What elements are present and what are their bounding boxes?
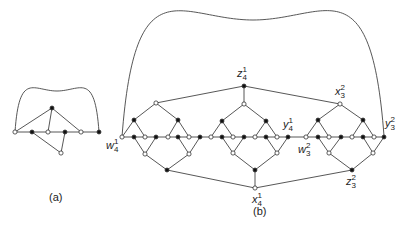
open-vertex <box>187 152 191 156</box>
filled-vertex <box>154 135 158 139</box>
filled-vertex <box>220 135 224 139</box>
filled-vertex <box>132 118 136 122</box>
filled-vertex <box>316 118 320 122</box>
open-vertex <box>275 151 279 155</box>
filled-vertex <box>361 135 365 139</box>
open-vertex <box>231 135 235 139</box>
vertex-label-w4_1: w14 <box>106 138 118 154</box>
filled-vertex <box>242 135 246 139</box>
open-vertex <box>143 135 147 139</box>
vertex-label-y3_2: y23 <box>385 116 395 132</box>
edge <box>122 120 134 137</box>
filled-vertex <box>361 118 365 122</box>
open-vertex <box>209 135 213 139</box>
edge <box>168 120 178 137</box>
edge <box>340 104 363 120</box>
edge <box>363 120 374 137</box>
edge <box>318 104 340 120</box>
edge <box>178 120 189 137</box>
edge <box>222 104 244 121</box>
open-vertex <box>59 151 63 155</box>
filled-vertex <box>220 119 224 123</box>
edge <box>167 170 255 188</box>
edge <box>211 121 222 137</box>
filled-vertex <box>316 135 320 139</box>
edge <box>255 153 277 170</box>
filled-vertex <box>176 135 180 139</box>
open-vertex <box>275 135 279 139</box>
filled-vertex <box>50 106 54 110</box>
filled-vertex <box>286 135 290 139</box>
graph-b <box>120 11 386 190</box>
edge <box>352 153 373 170</box>
edge <box>167 154 189 170</box>
graph-a <box>13 88 101 155</box>
edge <box>178 137 189 154</box>
open-vertex <box>79 130 83 134</box>
edge <box>266 121 277 137</box>
edge <box>145 154 167 170</box>
edge <box>156 103 178 120</box>
filled-vertex <box>253 168 257 172</box>
filled-vertex <box>264 135 268 139</box>
vertex-label-y4_1: y14 <box>283 117 293 133</box>
edge <box>48 108 52 132</box>
edge <box>363 137 373 153</box>
edge <box>233 153 255 170</box>
open-vertex <box>242 102 246 106</box>
edge <box>352 120 363 137</box>
edge <box>244 86 340 104</box>
edge <box>189 137 200 154</box>
filled-vertex <box>132 135 136 139</box>
edge <box>52 108 81 132</box>
arc-edge <box>122 11 384 137</box>
edge <box>145 137 156 154</box>
edge <box>233 137 244 153</box>
filled-vertex <box>97 130 101 134</box>
open-vertex <box>253 135 257 139</box>
edge <box>277 137 288 153</box>
open-vertex <box>231 151 235 155</box>
edge <box>222 121 233 137</box>
open-vertex <box>166 135 170 139</box>
edge <box>255 170 352 188</box>
edge <box>318 137 329 153</box>
open-vertex <box>327 135 331 139</box>
edge <box>134 120 145 137</box>
open-vertex <box>304 135 308 139</box>
filled-vertex <box>198 135 202 139</box>
open-vertex <box>338 102 342 106</box>
edge <box>266 137 277 153</box>
open-vertex <box>46 130 50 134</box>
filled-vertex <box>242 84 246 88</box>
open-vertex <box>187 135 191 139</box>
edge <box>15 108 52 132</box>
open-vertex <box>372 135 376 139</box>
filled-vertex <box>165 168 169 172</box>
filled-vertex <box>382 135 386 139</box>
edge <box>255 121 266 137</box>
edge <box>329 153 352 170</box>
edge <box>318 120 329 137</box>
caption-a: (a) <box>49 191 62 203</box>
open-vertex <box>350 135 354 139</box>
edge <box>32 132 61 153</box>
open-vertex <box>253 186 257 190</box>
vertex-label-z4_1: z14 <box>237 66 247 82</box>
edge <box>222 137 233 153</box>
open-vertex <box>13 130 17 134</box>
edge <box>156 86 244 103</box>
open-vertex <box>120 135 124 139</box>
filled-vertex <box>176 118 180 122</box>
open-vertex <box>327 151 331 155</box>
edge <box>244 104 266 121</box>
edge <box>134 137 145 154</box>
edge <box>306 120 318 137</box>
open-vertex <box>371 151 375 155</box>
filled-vertex <box>339 135 343 139</box>
edge <box>134 103 156 120</box>
filled-vertex <box>350 168 354 172</box>
edge <box>61 132 65 153</box>
vertex-label-w3_2: w23 <box>298 142 310 158</box>
filled-vertex <box>63 130 67 134</box>
